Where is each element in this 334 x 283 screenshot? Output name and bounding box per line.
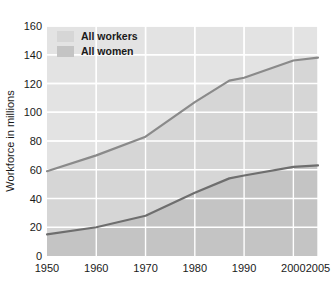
x-tick-label: 1950: [35, 262, 59, 274]
x-tick-label: 1960: [84, 262, 108, 274]
x-tick-label: 2005: [306, 262, 330, 274]
y-axis-tick-labels: 020406080100120140160: [24, 20, 42, 262]
y-tick-label: 120: [24, 78, 42, 90]
x-tick-label: 1970: [133, 262, 157, 274]
legend-label-all-women: All women: [81, 45, 134, 57]
y-tick-label: 0: [36, 250, 42, 262]
y-tick-label: 40: [30, 193, 42, 205]
y-tick-label: 140: [24, 49, 42, 61]
x-axis-tick-labels: 1950196019701980199020002005: [35, 262, 330, 274]
legend-swatch-all-workers: [57, 31, 74, 42]
y-tick-label: 100: [24, 106, 42, 118]
y-tick-label: 20: [30, 221, 42, 233]
workforce-area-chart: 020406080100120140160 195019601970198019…: [0, 0, 334, 283]
y-tick-label: 160: [24, 20, 42, 32]
x-tick-label: 1990: [232, 262, 256, 274]
y-axis-title: Workforce in millions: [4, 90, 16, 192]
x-tick-label: 1980: [183, 262, 207, 274]
x-tick-label: 2000: [281, 262, 305, 274]
y-tick-label: 60: [30, 164, 42, 176]
legend-swatch-all-women: [57, 46, 74, 57]
y-tick-label: 80: [30, 135, 42, 147]
legend-label-all-workers: All workers: [81, 30, 138, 42]
chart-container: 020406080100120140160 195019601970198019…: [0, 0, 334, 283]
